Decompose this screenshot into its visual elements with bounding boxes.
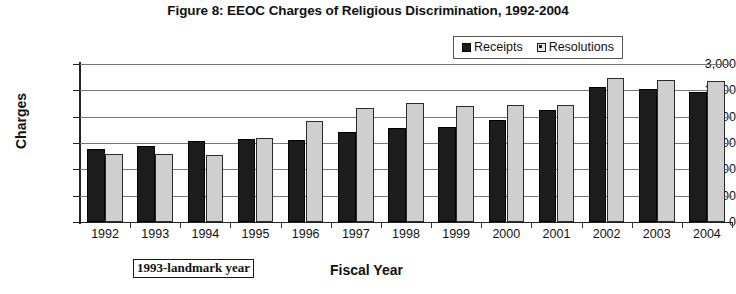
x-axis-line [79, 222, 733, 223]
bar-receipts-1998 [388, 128, 406, 222]
bar-group [137, 64, 173, 222]
bar-receipts-1996 [288, 140, 306, 222]
chart-legend: Receipts Resolutions [453, 36, 623, 59]
bar-resolutions-2004 [707, 81, 725, 222]
x-tick-label-2003: 2003 [632, 227, 682, 241]
bar-resolutions-1993 [155, 154, 173, 222]
bar-receipts-2001 [539, 110, 557, 222]
bar-receipts-2003 [639, 89, 657, 222]
x-tick-label-1992: 1992 [80, 227, 130, 241]
legend-label-resolutions: Resolutions [549, 40, 614, 54]
x-tick-label-1999: 1999 [431, 227, 481, 241]
bar-receipts-1999 [438, 127, 456, 222]
bar-resolutions-1997 [356, 108, 374, 222]
bar-receipts-2000 [489, 120, 507, 222]
bar-group [689, 64, 725, 222]
bar-receipts-1995 [238, 139, 256, 222]
bar-resolutions-2002 [607, 78, 625, 222]
x-tick-mark [732, 222, 733, 228]
bar-group [188, 64, 224, 222]
x-tick-label-1997: 1997 [331, 227, 381, 241]
figure-container: Figure 8: EEOC Charges of Religious Disc… [0, 0, 736, 294]
landmark-year-annotation: 1993-landmark year [133, 259, 254, 278]
bar-receipts-2002 [589, 87, 607, 222]
bar-resolutions-1995 [256, 138, 274, 222]
x-tick-label-2002: 2002 [582, 227, 632, 241]
x-tick-label-1993: 1993 [130, 227, 180, 241]
bar-group [388, 64, 424, 222]
bar-receipts-1992 [87, 149, 105, 222]
bar-resolutions-1998 [406, 103, 424, 222]
black-square-icon [462, 43, 471, 52]
x-tick-label-2001: 2001 [531, 227, 581, 241]
y-axis-title: Charges [13, 66, 29, 176]
bar-group [338, 64, 374, 222]
x-tick-label-2000: 2000 [481, 227, 531, 241]
bar-group [589, 64, 625, 222]
bar-group [238, 64, 274, 222]
bar-group [438, 64, 474, 222]
x-tick-label-1994: 1994 [180, 227, 230, 241]
bar-resolutions-1992 [105, 154, 123, 222]
x-tick-label-1996: 1996 [281, 227, 331, 241]
y-tick-mark [73, 222, 81, 223]
x-tick-label-1998: 1998 [381, 227, 431, 241]
x-tick-label-1995: 1995 [230, 227, 280, 241]
x-tick-label-2004: 2004 [682, 227, 732, 241]
bar-receipts-1993 [137, 146, 155, 222]
legend-entry-receipts: Receipts [462, 40, 523, 54]
bar-receipts-1994 [188, 141, 206, 222]
bar-resolutions-1999 [456, 106, 474, 222]
x-axis-title: Fiscal Year [330, 262, 403, 278]
bar-group [87, 64, 123, 222]
bar-resolutions-2000 [507, 105, 525, 222]
bar-resolutions-1994 [206, 155, 224, 222]
bar-resolutions-2003 [657, 80, 675, 222]
bar-group [539, 64, 575, 222]
bar-receipts-2004 [689, 92, 707, 222]
bar-receipts-1997 [338, 132, 356, 222]
bar-resolutions-1996 [306, 121, 324, 222]
bar-group [639, 64, 675, 222]
chart-title: Figure 8: EEOC Charges of Religious Disc… [0, 3, 736, 18]
bar-group [489, 64, 525, 222]
bar-group [288, 64, 324, 222]
white-square-icon [537, 43, 546, 52]
plot-area [80, 64, 732, 222]
legend-entry-resolutions: Resolutions [537, 40, 614, 54]
legend-label-receipts: Receipts [474, 40, 523, 54]
bar-resolutions-2001 [557, 105, 575, 222]
